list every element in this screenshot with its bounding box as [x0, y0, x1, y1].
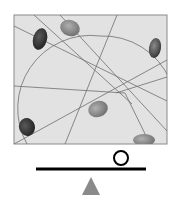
- diagram-canvas: [0, 0, 176, 213]
- balance-scale: [36, 151, 146, 195]
- weight-circle: [114, 151, 128, 165]
- fulcrum-triangle: [82, 177, 100, 195]
